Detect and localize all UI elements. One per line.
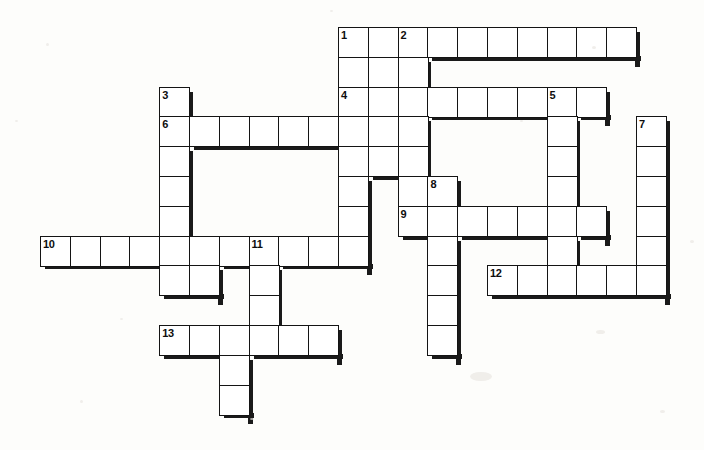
clue-number: 5 [550,90,556,101]
clue-number: 12 [490,268,502,279]
paper-speck [520,120,523,122]
paper-texture-layer [0,0,704,450]
paper-speck [330,10,333,12]
paper-speck [250,418,254,420]
clue-number: 10 [43,239,55,250]
clue-number: 9 [401,209,407,220]
paper-speck [596,330,605,334]
clue-number: 13 [162,328,174,339]
clue-number: 3 [162,90,168,101]
crossword-puzzle: 12345678910111213 [0,0,704,450]
clue-number: 7 [639,119,645,130]
clue-number: 2 [401,30,407,41]
paper-speck [80,400,83,403]
paper-speck [120,318,123,320]
paper-speck [690,240,694,243]
paper-speck [470,372,492,381]
paper-speck [15,120,18,122]
clue-number: 6 [162,119,168,130]
paper-speck [592,46,596,49]
clue-number: 4 [341,90,347,101]
clue-number: 11 [252,239,263,250]
clue-number: 1 [341,30,347,41]
paper-speck [660,410,665,413]
clue-number: 8 [430,179,436,190]
paper-speck [46,43,49,46]
